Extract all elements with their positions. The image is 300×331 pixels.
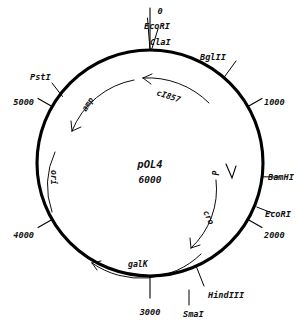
gene-label-ci857: cI857 <box>155 87 182 104</box>
coordinate-label-1000: 1000 <box>264 97 285 107</box>
coordinate-label-2000: 2000 <box>263 230 285 240</box>
tick-2000 <box>248 220 262 228</box>
restriction-site-label-ecori-top: EcoRI <box>144 21 171 31</box>
leader-bglii <box>224 61 236 77</box>
tick-1000 <box>248 98 262 106</box>
restriction-site-label-smai: SmaI <box>183 309 205 319</box>
gene-label-amp: amp <box>79 95 95 113</box>
tick-4000 <box>38 220 52 228</box>
gene-label-cro: cro <box>201 208 217 226</box>
restriction-site-label-bamhi: BamHI <box>267 172 295 182</box>
restriction-site-leaders <box>52 18 279 305</box>
gene-label-ori: ori <box>49 170 59 185</box>
restriction-site-label-psti-visible: PstI <box>30 72 52 82</box>
restriction-site-label-ecori-right: EcoRI <box>265 209 292 219</box>
plasmid-map-figure: 0 1000 2000 3000 4000 5000 EcoRI ClaI <box>0 0 300 331</box>
restriction-site-label-hindiii: HindIII <box>207 290 245 300</box>
coordinate-label-5000: 5000 <box>13 97 34 107</box>
promoter-label-p: P <box>211 170 221 175</box>
plasmid-name-label: pOL4 <box>136 158 162 170</box>
plasmid-map-canvas: 0 1000 2000 3000 4000 5000 EcoRI ClaI <box>0 0 300 331</box>
tick-5000 <box>38 98 52 106</box>
coordinate-label-3000: 3000 <box>139 307 161 317</box>
gene-label-galk: galK <box>128 259 149 269</box>
promoter-arrow-icon <box>226 164 236 178</box>
restriction-site-label-clai: ClaI <box>150 37 172 47</box>
plasmid-size-label: 6000 <box>139 174 162 185</box>
restriction-site-label-bglii: BglII <box>199 52 227 62</box>
arrowhead-ci857 <box>143 74 152 84</box>
leader-hindiii <box>196 267 204 286</box>
leader-psti <box>52 83 63 97</box>
coordinate-label-4000: 4000 <box>13 230 34 240</box>
coordinate-label-0: 0 <box>157 6 162 16</box>
